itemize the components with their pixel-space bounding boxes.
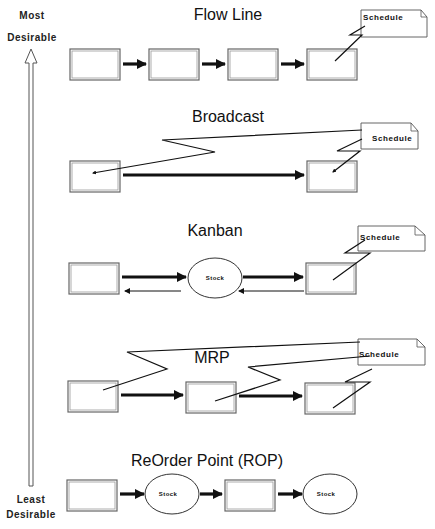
section-title: MRP [194, 349, 230, 366]
process-box [307, 161, 357, 192]
process-box [70, 161, 120, 192]
process-box [149, 49, 199, 80]
section-title: Broadcast [192, 108, 265, 125]
process-box [306, 263, 356, 294]
process-box [68, 381, 118, 412]
schedule-note: Schedule [358, 339, 425, 365]
section-mrp: MRP Schedule [68, 339, 425, 414]
axis-top-label-2: Desirable [7, 32, 57, 43]
section-title: ReOrder Point (ROP) [131, 452, 283, 469]
schedule-label: Schedule [363, 13, 403, 22]
diagram-canvas: Most Desirable Least Desirable Flow Line… [0, 0, 435, 529]
stock-label: Stock [159, 491, 178, 497]
schedule-note: Schedule [361, 123, 418, 149]
schedule-note: Schedule [358, 226, 425, 251]
process-box [228, 49, 278, 80]
section-title: Kanban [187, 222, 242, 239]
process-box [69, 263, 119, 294]
schedule-label: Schedule [372, 134, 412, 143]
axis-bottom-label-1: Least [17, 494, 46, 505]
up-arrow-icon [25, 49, 37, 486]
process-box [70, 49, 120, 80]
axis-bottom-label-2: Desirable [6, 509, 56, 520]
schedule-note: Schedule [361, 10, 427, 37]
schedule-label: Schedule [359, 350, 399, 359]
desirability-axis: Most Desirable Least Desirable [6, 10, 57, 520]
process-box [186, 382, 236, 413]
stock-buffer: Stock [303, 474, 357, 514]
process-box [225, 480, 275, 511]
axis-top-label-1: Most [19, 10, 45, 21]
schedule-label: Schedule [360, 233, 400, 242]
stock-buffer: Stock [188, 258, 242, 298]
section-broadcast: Broadcast Schedule [70, 108, 418, 192]
stock-label: Stock [317, 491, 336, 497]
section-kanban: Kanban Schedule Stock [69, 222, 425, 298]
stock-buffer: Stock [145, 474, 199, 514]
process-box [307, 49, 357, 80]
stock-label: Stock [206, 275, 225, 281]
section-reorder-point: ReOrder Point (ROP) Stock Stock [67, 452, 357, 514]
process-box [67, 480, 117, 511]
section-title: Flow Line [194, 6, 263, 23]
section-flow-line: Flow Line Schedule [70, 6, 427, 80]
